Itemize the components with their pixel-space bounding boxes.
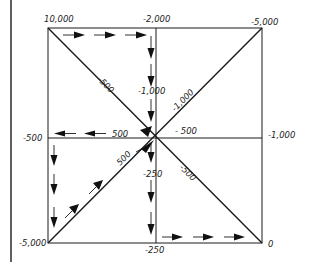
edge-label-horizontal-right: - 500: [175, 126, 197, 136]
edge-label-diag-bottom-left: 500: [114, 149, 133, 168]
arrow-group-bottom-right: [162, 234, 245, 241]
arrow-right-icon: [224, 234, 245, 241]
arrow-right-icon: [162, 234, 183, 241]
arrow-group-top-edge: [63, 32, 147, 39]
arrow-right-icon: [125, 32, 147, 39]
arrow-group-diagonal-lower-left: [65, 140, 154, 218]
arrow-down-icon: [148, 99, 155, 122]
arrow-left-icon: [54, 131, 76, 137]
edge-label-diag-bottom-right: -500: [178, 162, 199, 183]
edge-label-diag-top-right: -1,000: [169, 87, 195, 113]
arrow-group-left-lower: [51, 145, 58, 228]
arrow-right-icon: [193, 234, 214, 241]
arrow-left-icon: [84, 131, 106, 137]
arrow-down-icon: [148, 212, 155, 235]
arrow-up-right-icon: [89, 180, 103, 194]
arrow-down-icon: [51, 207, 58, 228]
arrow-right-icon: [94, 32, 116, 39]
arrow-group-middle-left: [54, 131, 106, 137]
arrow-right-icon: [63, 32, 85, 39]
node-label-bottom-center: -250: [145, 245, 164, 255]
edge-label-vertical-lower: -250: [143, 169, 162, 179]
edge-label-horizontal-left: 500: [112, 129, 128, 139]
node-label-mid-left: -500: [23, 133, 42, 143]
node-label-top-right: -5,000: [251, 17, 278, 27]
arrow-down-icon: [148, 180, 155, 203]
edge-label-diag-top-left: -500: [96, 74, 117, 95]
arrow-down-icon: [51, 174, 58, 195]
arrow-down-icon: [148, 36, 155, 59]
node-label-top-center: -2,000: [143, 14, 170, 24]
path-cost-diagram: 10,000 -2,000 -5,000 -500 -1,000 -5,000 …: [0, 0, 311, 266]
arrow-group-center-upper: [148, 36, 155, 122]
node-label-top-left: 10,000: [44, 14, 74, 24]
arrow-up-right-icon: [65, 204, 79, 218]
node-label-bottom-right: 0: [268, 239, 273, 249]
node-label-bottom-left: -5,000: [19, 238, 46, 248]
arrow-down-icon: [148, 64, 155, 87]
edge-label-vertical-upper: -1,000: [138, 86, 165, 96]
node-label-mid-right: -1,000: [268, 130, 295, 140]
arrow-group-center-lower: [148, 144, 155, 235]
arrow-down-icon: [51, 145, 58, 166]
